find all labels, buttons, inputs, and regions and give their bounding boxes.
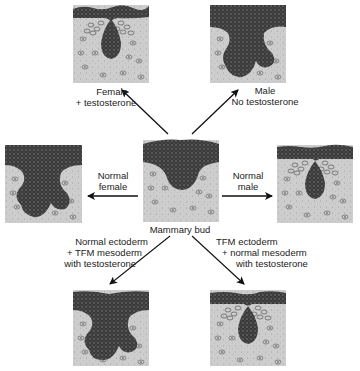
panel-bottom-right: [210, 290, 286, 366]
panel-top-right: [210, 5, 286, 83]
panel-center-mammary-bud: [143, 140, 219, 223]
label-mid-right-line1: Normal: [233, 170, 264, 181]
panel-mid-right: [277, 145, 353, 223]
label-bottom-left-line1: Normal ectoderm: [75, 236, 148, 247]
label-mid-left-line1: Normal: [98, 170, 129, 181]
panel-bottom-left: [73, 290, 149, 366]
label-bottom-left-line2: + TFM mesoderm: [67, 247, 142, 258]
label-top-right-line2: No testosterone: [231, 96, 298, 107]
label-mammary-bud: Mammary bud: [150, 224, 211, 235]
label-bottom-left-line3: with testosterone: [63, 258, 136, 269]
label-mid-left-line2: female: [99, 181, 128, 192]
mammary-development-diagram: Female + testosterone Male No testostero…: [0, 0, 360, 371]
panel-mid-left: [5, 145, 82, 223]
panel-top-left: [73, 5, 149, 83]
label-mid-right-line2: male: [238, 181, 259, 192]
label-top-left-line2: + testosterone: [76, 97, 136, 108]
label-top-left-line1: Female: [96, 86, 128, 97]
label-bottom-right-line2: + normal mesoderm: [222, 247, 307, 258]
label-top-right-line1: Male: [255, 85, 276, 96]
label-bottom-right-line3: with testosterone: [235, 258, 308, 269]
label-bottom-right-line1: TFM ectoderm: [216, 236, 278, 247]
